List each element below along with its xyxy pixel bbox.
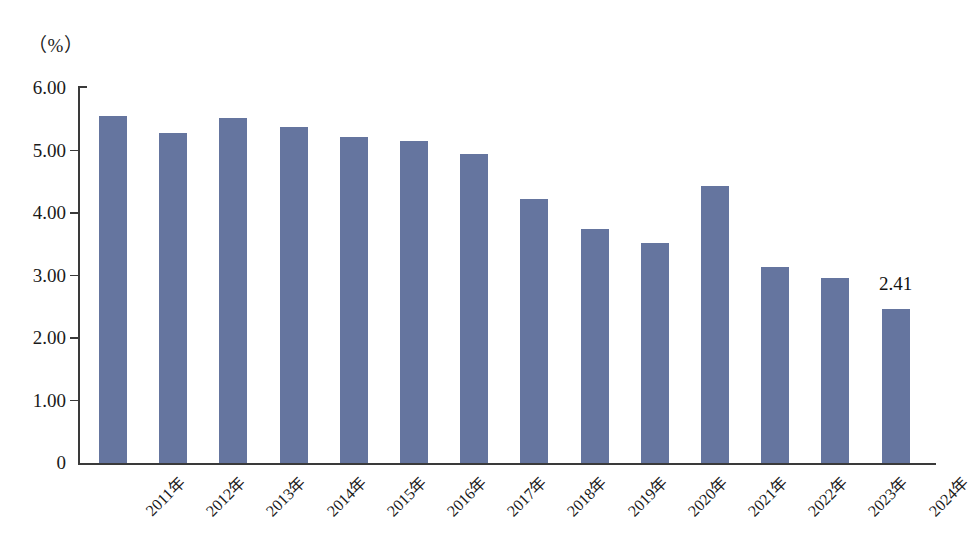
x-axis-line — [78, 463, 936, 465]
x-axis-tick-label: 2020年 — [681, 470, 732, 521]
y-axis-tick-label: 1.00 — [4, 391, 66, 410]
x-axis-tick-label: 2013年 — [259, 470, 310, 521]
x-axis-tick-label: 2014年 — [320, 470, 371, 521]
bar — [701, 186, 729, 464]
y-axis-unit-label: （%） — [28, 30, 83, 57]
x-axis-tick-label: 2015年 — [380, 470, 431, 521]
y-axis-tick-label: 4.00 — [4, 203, 66, 222]
bar — [761, 267, 789, 463]
y-axis-tick-label: 0 — [4, 453, 66, 472]
bar — [460, 154, 488, 463]
bar-series — [78, 88, 936, 463]
bar — [280, 127, 308, 463]
bar — [159, 133, 187, 463]
bar — [882, 309, 910, 463]
y-axis-tick-label: 5.00 — [4, 141, 66, 160]
x-axis-tick-label: 2023年 — [861, 470, 912, 521]
x-axis-tick-label: 2016年 — [440, 470, 491, 521]
bar — [641, 243, 669, 463]
x-axis-tick-label: 2011年 — [139, 470, 189, 520]
x-axis-tick-label: 2021年 — [741, 470, 792, 521]
x-axis-tick-label: 2018年 — [560, 470, 611, 521]
x-axis-tick-label: 2019年 — [621, 470, 672, 521]
y-axis-tick-label: 2.00 — [4, 328, 66, 347]
x-axis-tick-label: 2022年 — [801, 470, 852, 521]
x-axis-tick-label: 2012年 — [199, 470, 250, 521]
bar — [581, 229, 609, 463]
x-axis-tick-label: 2017年 — [500, 470, 551, 521]
bar — [219, 118, 247, 463]
bar — [400, 141, 428, 463]
x-axis-tick-label: 2024年 — [922, 470, 972, 521]
y-axis-tick-label: 6.00 — [4, 78, 66, 97]
bar — [821, 278, 849, 463]
bar — [520, 199, 548, 463]
y-axis-tick-label: 3.00 — [4, 266, 66, 285]
bar — [99, 116, 127, 463]
bar — [340, 137, 368, 463]
data-point-label: 2.41 — [866, 273, 926, 295]
